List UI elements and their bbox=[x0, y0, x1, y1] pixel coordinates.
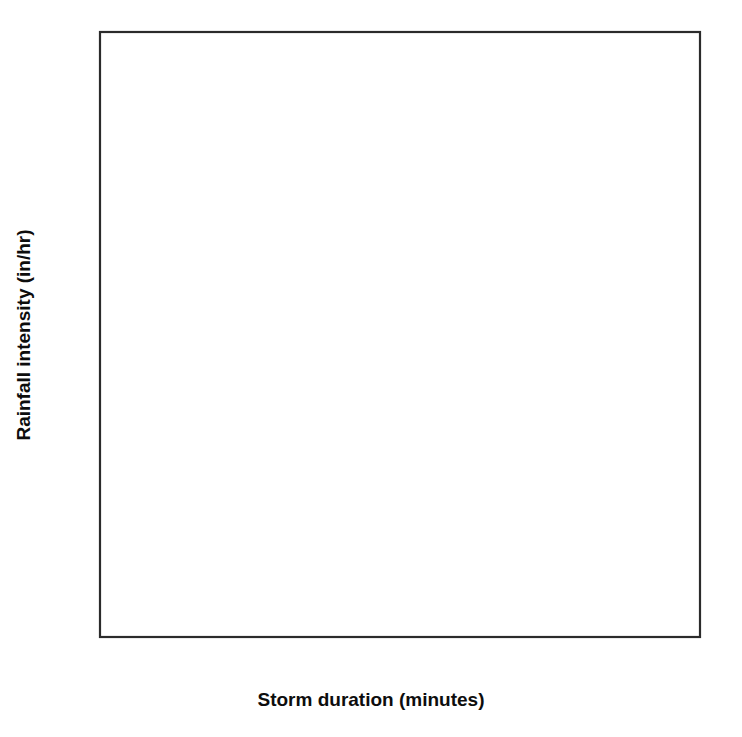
chart-canvas: Storm duration (minutes) Rainfall intens… bbox=[0, 0, 742, 737]
y-axis-title: Rainfall intensity (in/hr) bbox=[13, 229, 34, 440]
plot-area-background bbox=[100, 32, 700, 637]
rainfall-idf-chart: Storm duration (minutes) Rainfall intens… bbox=[0, 0, 742, 737]
x-axis-title: Storm duration (minutes) bbox=[258, 689, 485, 710]
